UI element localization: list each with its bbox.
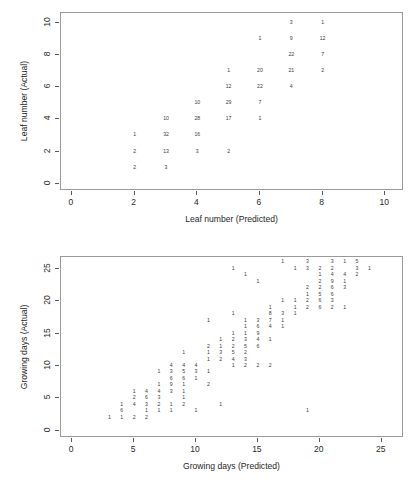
y-tick-mark [55,430,59,431]
chart-panel-growing-days: 1161124246312114321436931114561112431112… [0,246,419,496]
data-point-label: 1 [269,337,272,342]
data-point-label: 1 [195,409,198,414]
data-point-label: 1 [281,324,284,329]
data-point-label: 3 [145,402,148,407]
data-point-label: 2 [182,402,185,407]
data-point-label: 4 [232,357,235,362]
x-tick-label: 5 [131,445,136,454]
data-point-label: 21 [288,68,294,73]
data-point-label: 6 [318,305,321,310]
x-tick-label: 10 [190,445,199,454]
data-point-label: 1 [182,389,185,394]
data-point-label: 1 [170,409,173,414]
data-point-label: 3 [219,350,222,355]
x-tick-label: 15 [252,445,261,454]
plot-frame-growing-days: 1161124246312114321436931114561112431112… [60,256,403,437]
chart-panel-leaf-number: 1221032133102816311229172120227139222141… [0,0,419,246]
data-point-label: 1 [195,376,198,381]
x-tick-mark [257,438,258,442]
y-tick-label: 20 [43,295,52,304]
data-point-label: 2 [133,415,136,420]
y-tick-label: 8 [43,52,52,57]
data-point-label: 4 [157,389,160,394]
data-point-label: 8 [269,311,272,316]
x-tick-mark [319,438,320,442]
data-point-label: 2 [306,286,309,291]
data-point-label: 3 [281,311,284,316]
data-point-label: 2 [321,68,324,73]
data-point-label: 3 [306,266,309,271]
data-point-label: 6 [120,409,123,414]
data-point-label: 1 [321,20,324,25]
y-tick-label: 15 [43,328,52,337]
data-point-label: 1 [294,299,297,304]
data-point-label: 3 [170,370,173,375]
data-point-label: 1 [207,370,210,375]
data-point-label: 1 [306,292,309,297]
x-tick-label: 2 [131,198,136,207]
data-point-label: 2 [232,344,235,349]
data-point-label: 2 [244,350,247,355]
data-point-label: 1 [182,383,185,388]
y-tick-label: 4 [43,116,52,121]
data-point-label: 1 [244,273,247,278]
x-tick-label: 0 [69,445,74,454]
data-point-label: 1 [281,318,284,323]
data-point-label: 2 [318,286,321,291]
data-point-label: 1 [157,370,160,375]
y-tick-mark [55,397,59,398]
x-axis-title-growing-days: Growing days (Predicted) [183,461,280,471]
data-point-label: 3 [157,396,160,401]
data-point-label: 3 [290,20,293,25]
x-tick-label: 20 [314,445,323,454]
data-point-label: 3 [256,318,259,323]
data-point-label: 2 [227,149,230,154]
data-point-label: 1 [182,350,185,355]
data-point-label: 4 [331,273,334,278]
data-point-label: 1 [343,260,346,265]
y-tick-mark [55,151,59,152]
data-point-label: 1 [368,266,371,271]
data-point-label: 4 [343,273,346,278]
y-axis-title-growing-days: Growing days (Actual) [19,304,29,389]
data-point-label: 1 [207,350,210,355]
data-point-label: 1 [133,389,136,394]
data-point-label: 29 [226,101,232,106]
y-tick-mark [55,22,59,23]
data-point-label: 1 [120,402,123,407]
data-point-label: 2 [157,402,160,407]
data-point-label: 2 [331,266,334,271]
data-point-label: 3 [331,260,334,265]
y-tick-mark [55,333,59,334]
x-tick-label: 0 [69,198,74,207]
data-point-label: 6 [145,396,148,401]
y-tick-mark [55,118,59,119]
data-point-label: 4 [182,363,185,368]
figure-page: 1221032133102816311229172120227139222141… [0,0,419,496]
data-point-label: 10 [194,101,200,106]
data-points-growing-days: 1161124246312114321436931114561112431112… [61,257,402,436]
data-point-label: 6 [256,344,259,349]
data-point-label: 3 [244,357,247,362]
x-tick-mark [322,191,323,195]
data-point-label: 3 [331,299,334,304]
data-point-label: 5 [232,350,235,355]
x-tick-label: 4 [194,198,199,207]
data-point-label: 1 [343,279,346,284]
data-point-label: 1 [244,324,247,329]
data-point-label: 9 [170,383,173,388]
data-point-label: 6 [331,292,334,297]
data-point-label: 2 [256,363,259,368]
data-point-label: 1 [294,311,297,316]
data-point-label: 2 [318,279,321,284]
y-tick-mark [55,183,59,184]
data-point-label: 6 [331,286,334,291]
data-point-label: 3 [165,165,168,170]
x-tick-label: 25 [376,445,385,454]
data-point-label: 4 [256,337,259,342]
data-points-leaf-number: 1221032133102816311229172120227139222141… [61,13,402,189]
data-point-label: 1 [108,415,111,420]
x-tick-mark [134,191,135,195]
data-point-label: 1 [219,337,222,342]
x-tick-label: 8 [319,198,324,207]
